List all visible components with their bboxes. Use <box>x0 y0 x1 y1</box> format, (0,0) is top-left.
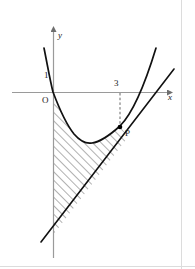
origin-label: O <box>42 95 49 105</box>
y-intercept-tick-label: 1 <box>44 70 49 80</box>
tangent-point-P <box>118 125 123 130</box>
y-axis-label: y <box>57 30 62 40</box>
math-figure: y x O 1 3 P <box>0 0 195 269</box>
x-tangent-tick-label: 3 <box>114 78 119 88</box>
x-axis-label: x <box>167 92 172 102</box>
figure-canvas: y x O 1 3 P <box>0 0 195 269</box>
shaded-region <box>53 92 128 235</box>
point-p-label: P <box>125 128 130 138</box>
